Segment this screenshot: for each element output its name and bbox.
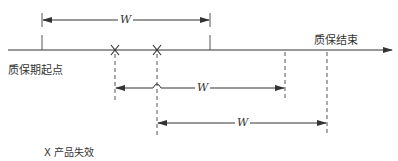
interval-label-1: W [118, 14, 133, 26]
interval-label-3: W [235, 117, 250, 129]
interval-label-2: W [195, 82, 210, 94]
legend-failure: X 产品失效 [44, 144, 94, 159]
warranty-end-label: 质保结束 [314, 31, 358, 47]
warranty-start-label: 质保期起点 [8, 61, 63, 77]
